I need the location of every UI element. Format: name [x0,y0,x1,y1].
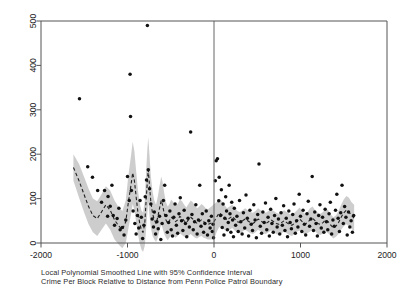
data-point [124,218,128,222]
data-point [288,221,292,225]
data-point [234,223,238,227]
data-point [155,220,159,224]
data-point [248,208,252,212]
x-tick-label: 1000 [291,250,310,260]
data-point [179,196,183,200]
data-point [343,205,347,209]
data-point [131,209,135,213]
data-point [235,215,239,219]
data-point [153,210,157,214]
data-point [322,231,326,235]
x-tick-label: 0 [212,250,217,260]
data-point [240,232,244,236]
y-tick-label: 300 [28,102,38,117]
data-point [194,203,198,207]
data-point [110,184,114,188]
data-point [103,189,107,193]
data-point [221,202,225,206]
data-point [143,195,147,199]
data-point [314,222,318,226]
data-point [128,73,132,77]
data-point [287,209,291,213]
scatter-plot: -2000-1000010002000 0100200300400500 [0,0,408,303]
data-point [253,218,257,222]
data-point [228,212,232,216]
data-point [158,215,162,219]
data-point [284,216,288,220]
data-point [208,226,212,230]
data-point [270,222,274,226]
data-point [217,176,221,180]
data-point [340,184,344,188]
data-point [146,24,150,28]
data-point [261,210,265,214]
data-point [252,203,256,207]
data-point [243,226,247,230]
data-point [172,216,176,220]
data-point [166,231,170,235]
data-point [303,223,307,227]
data-point [352,214,356,218]
data-point [309,217,313,221]
data-point [349,219,353,223]
data-point [316,234,320,238]
data-point [230,200,234,204]
data-point [323,208,327,212]
data-point [268,234,272,238]
data-point [282,204,286,208]
data-point [301,208,305,212]
x-tick-label: 2000 [377,250,396,260]
data-point [184,222,188,226]
data-point [222,233,226,237]
data-point [232,235,236,239]
data-point [339,211,343,215]
y-tick-label: 500 [28,14,38,29]
data-point [220,188,224,192]
data-point [277,217,281,221]
data-point [227,221,231,225]
data-point [344,216,348,220]
data-point [171,234,175,238]
data-point [273,214,277,218]
data-point [334,208,338,212]
data-point [189,130,193,134]
figure-caption: Local Polynomial Smoothed Line with 95% … [41,268,381,286]
data-point [332,224,336,228]
x-tick-label: -1000 [117,250,139,260]
data-point [233,207,237,211]
data-point [156,227,160,231]
data-point [318,203,322,207]
data-point [317,214,321,218]
data-point [130,189,134,193]
data-point [269,208,273,212]
data-point [147,168,151,172]
data-point [127,199,131,203]
data-point [148,187,152,191]
data-point [265,228,269,232]
data-point [193,220,197,224]
data-point [219,214,223,218]
data-point [330,232,334,236]
data-point [136,214,140,218]
data-point [279,211,283,215]
data-point [162,199,166,203]
data-point [159,238,163,242]
data-point [257,162,261,166]
data-point [296,225,300,229]
data-point [204,209,208,213]
data-point [294,231,298,235]
data-point [145,178,149,182]
data-point [291,213,295,217]
data-point [297,192,301,196]
data-point [229,231,233,235]
data-point [186,216,190,220]
data-point [326,228,330,232]
x-tick-label: -2000 [30,250,52,260]
data-point [217,199,221,203]
data-point [223,216,227,220]
data-point [304,233,308,237]
data-point [290,227,294,231]
data-point [262,221,266,225]
data-point [216,157,220,161]
data-point [78,97,82,101]
